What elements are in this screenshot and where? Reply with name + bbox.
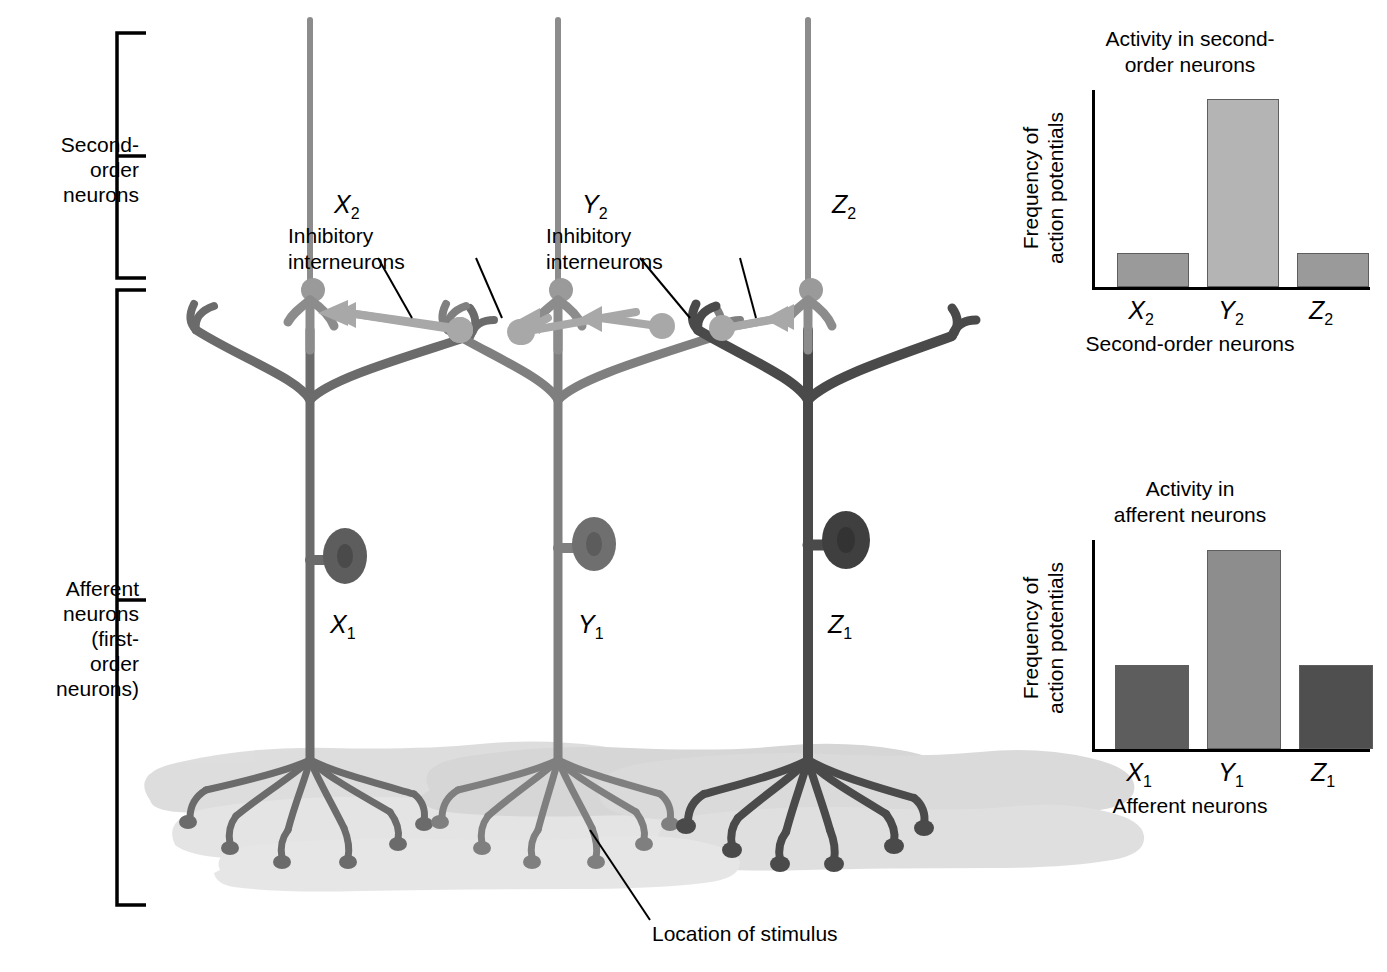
neuron-label-z2-letter: Z	[832, 190, 847, 218]
tick-y2-sub: 2	[1235, 311, 1244, 328]
tick-x1-sub: 1	[1143, 773, 1152, 790]
tick-x2-sub: 2	[1145, 311, 1154, 328]
neuron-label-x2-sub: 2	[351, 205, 360, 222]
chart-tick-z1: Z1	[1293, 758, 1353, 791]
neuron-label-y2-sub: 2	[599, 205, 608, 222]
chart-title-second-order: Activity in second- order neurons	[1000, 26, 1380, 78]
tick-z2-sub: 2	[1324, 311, 1333, 328]
chart-plot-second-order	[1092, 90, 1370, 290]
chart-ylabel-afferent: Frequency of action potentials	[1018, 528, 1068, 748]
chart-plot-afferent	[1092, 540, 1370, 752]
neuron-label-y1-sub: 1	[595, 625, 604, 642]
tick-y1-letter: Y	[1218, 758, 1235, 786]
bar-y1	[1207, 550, 1281, 749]
annotation-location-of-stimulus: Location of stimulus	[652, 921, 838, 946]
chart-tick-x2: X2	[1111, 296, 1171, 329]
neuron-label-x1-letter: X	[330, 610, 347, 638]
bracket-label-second-order: Second- order neurons	[0, 132, 139, 207]
neuron-label-z1-sub: 1	[843, 625, 852, 642]
chart-afferent-neurons: Activity in afferent neurons Frequency o…	[1000, 470, 1380, 810]
neuron-label-x1-sub: 1	[347, 625, 356, 642]
chart-second-order-neurons: Activity in second- order neurons Freque…	[1000, 20, 1380, 360]
bar-z1	[1299, 665, 1373, 749]
tick-y1-sub: 1	[1235, 773, 1244, 790]
neuron-label-x1: X1	[330, 612, 356, 646]
neuron-label-y1-letter: Y	[578, 610, 595, 638]
neuron-label-z2: Z2	[832, 192, 856, 226]
chart-tick-x1: X1	[1109, 758, 1169, 791]
second-order-neuron-y2	[536, 20, 582, 350]
chart-ylabel-second-order: Frequency of action potentials	[1018, 88, 1068, 288]
interneuron-A	[330, 302, 473, 343]
chart-tick-y1: Y1	[1201, 758, 1261, 791]
neuron-label-x2-letter: X	[334, 190, 351, 218]
neuron-label-y1: Y1	[578, 612, 604, 646]
second-order-neuron-z2	[786, 20, 832, 350]
neuron-label-y2-letter: Y	[582, 190, 599, 218]
tick-x1-letter: X	[1126, 758, 1143, 786]
bar-y2	[1207, 99, 1279, 287]
tick-z2-letter: Z	[1309, 296, 1324, 324]
chart-tick-y2: Y2	[1201, 296, 1261, 329]
chart-x-axis-afferent	[1092, 749, 1370, 752]
figure-root: .so { stroke:#8c8c8c; fill:none; stroke-…	[0, 0, 1387, 972]
bar-x1	[1115, 665, 1189, 749]
chart-xlabel-second-order: Second-order neurons	[1000, 332, 1380, 356]
annotation-inhibitory-interneurons-right: Inhibitory interneurons	[546, 223, 663, 275]
tick-z1-sub: 1	[1326, 773, 1335, 790]
neuron-label-x2: X2	[334, 192, 360, 226]
chart-bars-second-order	[1095, 90, 1370, 287]
tick-x2-letter: X	[1128, 296, 1145, 324]
neuron-label-y2: Y2	[582, 192, 608, 226]
neuron-label-z2-sub: 2	[847, 205, 856, 222]
bar-x2	[1117, 253, 1189, 287]
neuron-label-z1-letter: Z	[828, 610, 843, 638]
chart-xlabel-afferent: Afferent neurons	[1000, 794, 1380, 818]
chart-title-afferent: Activity in afferent neurons	[1000, 476, 1380, 528]
neuron-label-z1: Z1	[828, 612, 852, 646]
bracket-label-afferent: Afferent neurons (first- order neurons)	[0, 576, 139, 701]
second-order-neuron-x2	[288, 20, 334, 350]
bar-z2	[1297, 253, 1369, 287]
chart-bars-afferent	[1095, 540, 1370, 749]
annotation-inhibitory-interneurons-left: Inhibitory interneurons	[288, 223, 405, 275]
tick-z1-letter: Z	[1311, 758, 1326, 786]
chart-x-axis-second-order	[1092, 287, 1370, 290]
chart-tick-z2: Z2	[1291, 296, 1351, 329]
tick-y2-letter: Y	[1218, 296, 1235, 324]
